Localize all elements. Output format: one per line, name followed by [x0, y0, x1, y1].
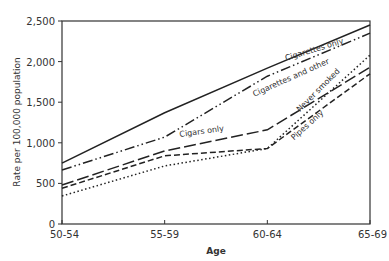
- x-tick-label: 55-59: [150, 229, 179, 240]
- series-label: Cigarettes only: [284, 36, 345, 62]
- x-tick-label: 65-69: [358, 229, 387, 240]
- plot-frame: [62, 21, 370, 224]
- x-axis-title: Age: [206, 246, 226, 256]
- y-tick-label: 500: [36, 178, 55, 189]
- y-tick-label: 1,500: [26, 97, 55, 108]
- y-tick-label: 2,000: [26, 57, 55, 68]
- y-tick-label: 1,000: [26, 138, 55, 149]
- line-chart: 05001,0001,5002,0002,50050-5455-5960-646…: [0, 0, 389, 261]
- series-label: Cigars only: [179, 124, 225, 139]
- series-line-cigarettes-and-other: [62, 33, 370, 170]
- y-axis-title: Rate per 100,000 population: [12, 57, 22, 186]
- x-tick-label: 60-64: [253, 229, 282, 240]
- x-tick-label: 50-54: [50, 229, 79, 240]
- series-labels: Cigarettes onlyCigarettes and otherCigar…: [179, 36, 345, 142]
- y-tick-label: 2,500: [26, 16, 55, 27]
